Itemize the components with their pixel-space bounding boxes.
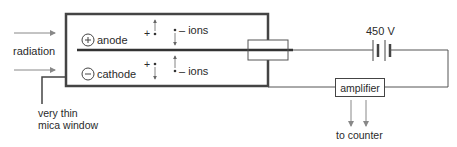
anode-label: anode: [97, 34, 128, 46]
window-label-line1: very thin: [38, 107, 78, 119]
positive-ion-bottom: [154, 63, 157, 79]
cathode-label: cathode: [97, 68, 136, 80]
battery-icon: [373, 40, 390, 61]
negative-ion-bottom: [174, 56, 177, 72]
voltage-label: 450 V: [366, 25, 395, 37]
positive-ion-top: [154, 20, 157, 35]
window-label-line2: mica window: [38, 119, 98, 131]
negative-ion-top: [174, 29, 177, 45]
amplifier-box: amplifier: [335, 78, 385, 97]
output-arrows: [351, 100, 366, 126]
negative-ions-top-label: – ions: [179, 24, 208, 36]
negative-ions-bottom-label: – ions: [179, 65, 208, 77]
to-counter-label: to counter: [336, 129, 383, 141]
positive-ion-top-label: +: [144, 27, 150, 39]
window-leader: [42, 77, 66, 104]
positive-ion-bottom-label: +: [144, 58, 150, 70]
amplifier-label: amplifier: [340, 82, 380, 94]
radiation-label: radiation: [13, 45, 55, 57]
